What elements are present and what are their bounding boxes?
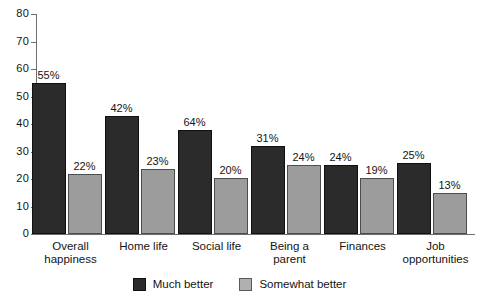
bar-much-better: 42% <box>105 116 139 234</box>
bar-chart: 80 70 60 50 40 30 20 10 0 55%22%42%23%64… <box>0 0 479 304</box>
bar-value-label: 31% <box>256 132 278 144</box>
x-axis-label-job-opportunities: Jobopportunities <box>399 240 472 266</box>
bar-somewhat-better: 13% <box>433 193 467 234</box>
bar-value-label: 64% <box>183 116 205 128</box>
bar-somewhat-better: 24% <box>287 165 321 234</box>
x-axis-label-home-life: Home life <box>107 240 180 253</box>
x-axis-label-line: opportunities <box>399 253 472 266</box>
x-axis-label-line: parent <box>253 253 326 266</box>
legend-label-somewhat-better: Somewhat better <box>259 278 346 291</box>
x-axis-label-line: Overall <box>34 240 107 253</box>
bar-value-label: 55% <box>37 69 59 81</box>
bar-value-label: 20% <box>219 164 241 176</box>
bar-value-label: 24% <box>292 151 314 163</box>
y-axis-label-10: 10 <box>3 201 29 212</box>
bar-somewhat-better: 19% <box>360 178 394 234</box>
x-axis-label-line: Finances <box>326 240 399 253</box>
y-axis-label-0: 0 <box>3 228 29 239</box>
x-axis-label-line: Home life <box>107 240 180 253</box>
x-axis-label-line: Social life <box>180 240 253 253</box>
x-axis-label-overall-happiness: Overallhappiness <box>34 240 107 266</box>
legend-item-much-better: Much better <box>133 278 214 291</box>
bar-much-better: 25% <box>397 163 431 235</box>
bar-much-better: 24% <box>324 165 358 234</box>
bar-value-label: 24% <box>329 151 351 163</box>
x-axis-label-line: Job <box>399 240 472 253</box>
y-axis-label-40: 40 <box>3 118 29 129</box>
bar-value-label: 25% <box>402 149 424 161</box>
bar-value-label: 23% <box>146 155 168 167</box>
x-axis-label-line: Being a <box>253 240 326 253</box>
y-axis-label-50: 50 <box>3 91 29 102</box>
y-axis-label-30: 30 <box>3 146 29 157</box>
legend-item-somewhat-better: Somewhat better <box>239 278 346 291</box>
y-axis-label-80: 80 <box>3 8 29 19</box>
legend-swatch-somewhat-better-icon <box>239 278 252 291</box>
x-axis-label-finances: Finances <box>326 240 399 253</box>
x-axis-label-line: happiness <box>34 253 107 266</box>
y-axis-label-20: 20 <box>3 173 29 184</box>
bar-much-better: 31% <box>251 146 285 234</box>
y-axis-label-70: 70 <box>3 36 29 47</box>
bar-value-label: 19% <box>365 164 387 176</box>
bar-much-better: 64% <box>178 130 212 235</box>
bar-somewhat-better: 22% <box>68 174 102 235</box>
chart-legend: Much better Somewhat better <box>0 278 479 291</box>
bar-value-label: 22% <box>73 160 95 172</box>
bar-somewhat-better: 23% <box>141 169 175 234</box>
legend-label-much-better: Much better <box>153 278 214 291</box>
x-axis-label-social-life: Social life <box>180 240 253 253</box>
y-axis-label-60: 60 <box>3 63 29 74</box>
x-axis-line <box>36 234 475 235</box>
plot-area: 55%22%42%23%64%20%31%24%24%19%25%13% <box>36 14 474 234</box>
bar-much-better: 55% <box>32 83 66 234</box>
bar-value-label: 13% <box>438 179 460 191</box>
bar-somewhat-better: 20% <box>214 178 248 234</box>
x-axis-label-being-a-parent: Being aparent <box>253 240 326 266</box>
bar-value-label: 42% <box>110 102 132 114</box>
legend-swatch-much-better-icon <box>133 278 146 291</box>
